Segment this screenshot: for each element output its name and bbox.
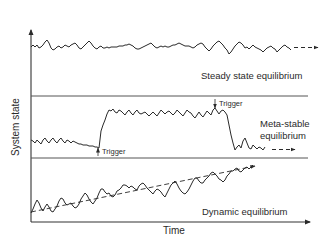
trigger-down-label: Trigger	[219, 100, 242, 108]
equilibrium-diagram: Steady state equilibrium Meta-stable equ…	[0, 0, 328, 244]
trigger-up-label: Trigger	[102, 148, 125, 156]
steady-state-signal	[31, 40, 318, 54]
meta-stable-label-line1: Meta-stable	[260, 119, 310, 129]
dynamic-equilibrium-label: Dynamic equilibrium	[202, 207, 288, 217]
meta-stable-label-line2: equilibrium	[260, 131, 306, 141]
y-axis-label: System state	[11, 92, 21, 162]
steady-state-label: Steady state equilibrium	[201, 71, 302, 81]
x-axis-label: Time	[163, 226, 185, 236]
meta-stable-signal	[31, 99, 295, 156]
